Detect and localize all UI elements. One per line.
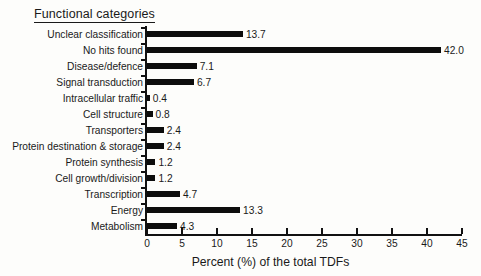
category-label: Signal transduction: [56, 77, 143, 88]
x-axis-line: [145, 234, 462, 236]
bar-row: Metabolism4.3: [0, 218, 481, 234]
category-label: No hits found: [83, 45, 143, 56]
x-axis-tick: [356, 228, 358, 234]
category-label: Protein destination & storage: [12, 141, 143, 152]
bar: [147, 47, 441, 53]
category-label: Unclear classification: [47, 29, 143, 40]
y-axis-tick: [141, 91, 145, 93]
x-axis-tick: [146, 228, 148, 234]
bar-value-label: 1.2: [155, 157, 172, 168]
x-axis-tick-label: 20: [281, 238, 292, 249]
bar-row: Cell growth/division1.2: [0, 170, 481, 186]
x-axis-tick-label: 40: [421, 238, 432, 249]
x-axis-tick-label: 35: [386, 238, 397, 249]
bar-row: Transporters2.4: [0, 122, 481, 138]
x-axis-tick: [391, 228, 393, 234]
y-axis-tick: [141, 123, 145, 125]
bar: [147, 159, 155, 165]
category-label: Protein synthesis: [65, 157, 143, 168]
bar: [147, 79, 194, 85]
bar: [147, 175, 155, 181]
bar-row: Signal transduction6.7: [0, 74, 481, 90]
bar-row: Protein destination & storage2.4: [0, 138, 481, 154]
category-label: Disease/defence: [67, 61, 143, 72]
bar-value-label: 4.7: [180, 189, 197, 200]
bar-row: Unclear classification13.7: [0, 26, 481, 42]
bar-value-label: 2.4: [164, 141, 181, 152]
bar-row: Protein synthesis1.2: [0, 154, 481, 170]
x-axis-tick-label: 5: [179, 238, 185, 249]
x-axis-tick-label: 45: [456, 238, 467, 249]
x-axis-tick: [461, 228, 463, 234]
bar-row: No hits found42.0: [0, 42, 481, 58]
bar: [147, 127, 164, 133]
category-label: Energy: [111, 205, 143, 216]
bar-value-label: 2.4: [164, 125, 181, 136]
bar: [147, 31, 243, 37]
bar: [147, 191, 180, 197]
x-axis-tick: [321, 228, 323, 234]
x-axis-tick: [251, 228, 253, 234]
bar-value-label: 4.3: [177, 221, 194, 232]
x-axis-title: Percent (%) of the total TDFs: [0, 255, 481, 269]
bar-value-label: 6.7: [194, 77, 211, 88]
x-axis-tick: [216, 228, 218, 234]
y-axis-tick: [141, 59, 145, 61]
bar-row: Disease/defence7.1: [0, 58, 481, 74]
x-axis-tick-label: 30: [351, 238, 362, 249]
bar-row: Intracellular traffic0.4: [0, 90, 481, 106]
x-axis-tick: [426, 228, 428, 234]
x-axis-tick: [181, 228, 183, 234]
category-label: Cell growth/division: [55, 173, 143, 184]
category-label: Metabolism: [91, 221, 143, 232]
bar-chart: Functional categories Unclear classifica…: [0, 0, 481, 276]
bar: [147, 207, 240, 213]
bar-value-label: 1.2: [155, 173, 172, 184]
y-axis-tick: [141, 171, 145, 173]
bar-row: Transcription4.7: [0, 186, 481, 202]
y-axis-tick: [141, 219, 145, 221]
category-label: Cell structure: [83, 109, 143, 120]
y-axis-tick: [141, 75, 145, 77]
bar: [147, 63, 197, 69]
y-axis-tick: [141, 107, 145, 109]
bar-row: Cell structure0.8: [0, 106, 481, 122]
y-axis-tick: [141, 155, 145, 157]
bar: [147, 143, 164, 149]
x-axis-tick-label: 15: [246, 238, 257, 249]
bar-value-label: 0.4: [150, 93, 167, 104]
bar-value-label: 0.8: [153, 109, 170, 120]
plot-area: Unclear classification13.7No hits found4…: [0, 0, 481, 276]
x-axis-tick-label: 10: [211, 238, 222, 249]
x-axis-tick: [286, 228, 288, 234]
x-axis-tick-label: 25: [316, 238, 327, 249]
bar: [147, 223, 177, 229]
y-axis-tick: [141, 187, 145, 189]
y-axis-tick: [141, 203, 145, 205]
bar-value-label: 7.1: [197, 61, 214, 72]
y-axis-tick: [141, 27, 145, 29]
y-axis-tick: [141, 43, 145, 45]
category-label: Transporters: [86, 125, 143, 136]
bar-row: Energy13.3: [0, 202, 481, 218]
category-label: Intracellular traffic: [63, 93, 143, 104]
bar-value-label: 13.7: [243, 29, 266, 40]
y-axis-tick: [141, 139, 145, 141]
category-label: Transcription: [84, 189, 143, 200]
bar-value-label: 13.3: [240, 205, 263, 216]
x-axis-tick-label: 0: [144, 238, 150, 249]
bar-value-label: 42.0: [441, 45, 464, 56]
